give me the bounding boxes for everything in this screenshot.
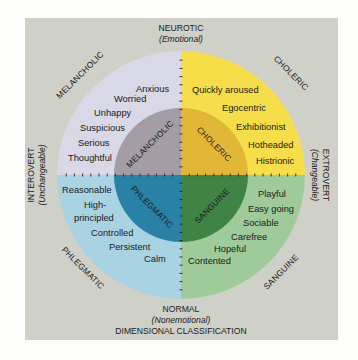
choleric-trait: Egocentric — [222, 103, 266, 113]
diagram-title: DIMENSIONAL CLASSIFICATION — [115, 326, 246, 336]
sanguine-trait: Contented — [188, 256, 231, 266]
melancholic-trait: Unhappy — [94, 108, 132, 118]
phlegmatic-trait: High- — [84, 200, 106, 210]
phlegmatic-trait: Reasonable — [62, 185, 112, 195]
melancholic-trait: Anxious — [136, 84, 169, 94]
melancholic-trait: Thoughtful — [68, 153, 112, 163]
choleric-trait: Histrionic — [256, 156, 295, 166]
sanguine-trait: Hopeful — [214, 244, 246, 254]
choleric-trait: Quickly aroused — [192, 85, 259, 95]
phlegmatic-trait: Controlled — [91, 228, 133, 238]
axis-left-sublabel: (Unchangeable) — [37, 144, 47, 205]
axis-right-sublabel: (Changeable) — [310, 149, 320, 201]
melancholic-trait: Worried — [114, 94, 146, 104]
axis-bottom-label: NORMAL — [163, 304, 200, 314]
sanguine-trait: Playful — [258, 189, 286, 199]
melancholic-trait: Suspicious — [80, 123, 125, 133]
sanguine-trait: Carefree — [231, 232, 267, 242]
sanguine-trait: Sociable — [243, 218, 279, 228]
choleric-trait: Exhibitionist — [236, 122, 286, 132]
axis-left-label: INTEROVERT — [26, 147, 36, 203]
axis-bottom-sublabel: (Nonemotional) — [152, 315, 211, 325]
axis-top-sublabel: (Emotional) — [159, 34, 203, 44]
phlegmatic-trait: principled — [74, 213, 114, 223]
temperament-diagram: NEUROTIC (Emotional) NORMAL (Nonemotiona… — [0, 0, 358, 360]
sanguine-trait: Easy going — [248, 204, 294, 214]
choleric-trait: Hotheaded — [248, 140, 294, 150]
axis-top-label: NEUROTIC — [159, 23, 204, 33]
melancholic-trait: Serious — [78, 138, 110, 148]
outer-label-choleric: CHOLERIC — [272, 53, 311, 92]
phlegmatic-trait: Calm — [144, 254, 166, 264]
axis-right-label: EXTROVERT — [321, 149, 331, 202]
phlegmatic-trait: Persistent — [109, 242, 151, 252]
